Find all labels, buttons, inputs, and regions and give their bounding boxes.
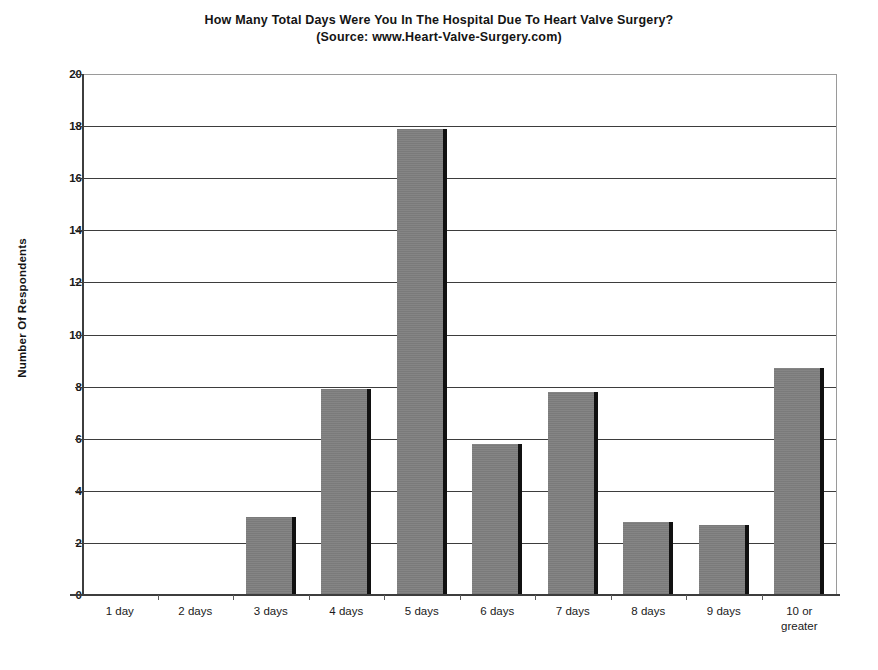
y-tick-mark bbox=[75, 178, 82, 179]
x-tick-label: 2 days bbox=[158, 604, 234, 619]
x-tick-label-line: 7 days bbox=[556, 605, 590, 617]
y-tick-mark bbox=[75, 282, 82, 283]
bar-slot bbox=[321, 74, 371, 595]
x-tick-label: 6 days bbox=[460, 604, 536, 619]
x-tick-label-line: 10 or bbox=[786, 605, 812, 617]
x-tick-label-line: 8 days bbox=[631, 605, 665, 617]
bar-slot bbox=[246, 74, 296, 595]
x-tick-label-line: 9 days bbox=[707, 605, 741, 617]
bar-slot bbox=[170, 74, 220, 595]
x-tick-mark bbox=[535, 595, 536, 600]
bar-series bbox=[82, 74, 837, 595]
chart-title-subtitle: (Source: www.Heart-Valve-Surgery.com) bbox=[0, 29, 878, 46]
x-tick-mark bbox=[762, 595, 763, 600]
bar bbox=[774, 368, 824, 595]
y-tick-mark bbox=[75, 74, 82, 75]
y-tick-mark bbox=[75, 491, 82, 492]
x-axis-ticks bbox=[82, 595, 837, 601]
x-tick-label: 10 orgreater bbox=[762, 604, 838, 634]
x-tick-mark bbox=[233, 595, 234, 600]
bar-slot bbox=[699, 74, 749, 595]
x-tick-mark bbox=[158, 595, 159, 600]
bar bbox=[246, 517, 296, 595]
bar-slot bbox=[472, 74, 522, 595]
bar bbox=[699, 525, 749, 595]
bar-slot bbox=[548, 74, 598, 595]
x-tick-label-line: 3 days bbox=[254, 605, 288, 617]
y-tick-mark bbox=[75, 335, 82, 336]
x-tick-label-line: 6 days bbox=[480, 605, 514, 617]
y-tick-mark bbox=[75, 387, 82, 388]
bar-slot bbox=[623, 74, 673, 595]
bar-slot bbox=[95, 74, 145, 595]
x-tick-label: 4 days bbox=[309, 604, 385, 619]
x-tick-mark bbox=[384, 595, 385, 600]
x-tick-label: 3 days bbox=[233, 604, 309, 619]
bar bbox=[397, 129, 447, 595]
x-tick-label-line: 1 day bbox=[106, 605, 134, 617]
bar bbox=[472, 444, 522, 595]
x-tick-label: 5 days bbox=[384, 604, 460, 619]
y-tick-mark bbox=[75, 439, 82, 440]
x-tick-label-line: greater bbox=[762, 619, 838, 634]
x-tick-label-line: 2 days bbox=[178, 605, 212, 617]
x-tick-mark bbox=[611, 595, 612, 600]
x-tick-label: 9 days bbox=[686, 604, 762, 619]
x-tick-label-line: 5 days bbox=[405, 605, 439, 617]
chart-title-line1: How Many Total Days Were You In The Hosp… bbox=[205, 13, 674, 27]
bar bbox=[321, 389, 371, 595]
x-tick-mark bbox=[309, 595, 310, 600]
x-axis-labels: 1 day2 days3 days4 days5 days6 days7 day… bbox=[82, 604, 837, 650]
bar-slot bbox=[397, 74, 447, 595]
x-tick-label: 8 days bbox=[611, 604, 687, 619]
bar-slot bbox=[774, 74, 824, 595]
y-tick-mark bbox=[75, 543, 82, 544]
bar bbox=[623, 522, 673, 595]
y-tick-mark bbox=[75, 230, 82, 231]
bar bbox=[548, 392, 598, 595]
x-tick-label: 7 days bbox=[535, 604, 611, 619]
x-tick-label-line: 4 days bbox=[329, 605, 363, 617]
chart-title: How Many Total Days Were You In The Hosp… bbox=[0, 12, 878, 46]
x-tick-mark bbox=[686, 595, 687, 600]
x-tick-mark bbox=[460, 595, 461, 600]
y-tick-mark bbox=[75, 126, 82, 127]
y-axis-title: Number Of Respondents bbox=[16, 198, 28, 418]
x-tick-label: 1 day bbox=[82, 604, 158, 619]
